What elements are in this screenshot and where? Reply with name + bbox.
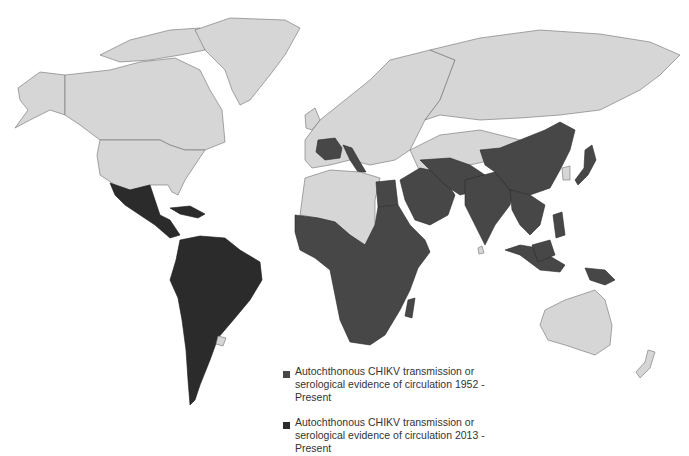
- map-legend: Autochthonous CHIKV transmission or sero…: [283, 365, 513, 456]
- region-egypt: [376, 180, 398, 207]
- legend-swatch-1952: [283, 371, 290, 378]
- region-korea: [562, 166, 570, 180]
- region-canadian-arctic: [100, 28, 205, 62]
- region-japan: [575, 145, 596, 185]
- region-australia: [540, 290, 612, 355]
- legend-item-1952: Autochthonous CHIKV transmission or sero…: [283, 365, 513, 404]
- legend-label-2013: Autochthonous CHIKV transmission or sero…: [295, 416, 513, 455]
- region-madagascar: [405, 298, 415, 318]
- region-sri-lanka: [478, 246, 484, 254]
- region-alaska: [15, 72, 65, 128]
- region-russia: [425, 30, 680, 120]
- region-philippines: [553, 212, 565, 238]
- region-southeast-asia: [510, 190, 545, 235]
- region-caribbean: [170, 206, 205, 218]
- region-uruguay: [216, 336, 226, 346]
- legend-item-2013: Autochthonous CHIKV transmission or sero…: [283, 416, 513, 455]
- region-papua-new-guinea: [585, 268, 615, 285]
- region-canada: [65, 58, 225, 150]
- region-mexico: [110, 183, 180, 238]
- region-south-america: [170, 236, 262, 405]
- region-new-zealand: [636, 350, 655, 378]
- legend-swatch-2013: [283, 422, 290, 429]
- legend-label-1952: Autochthonous CHIKV transmission or sero…: [295, 365, 513, 404]
